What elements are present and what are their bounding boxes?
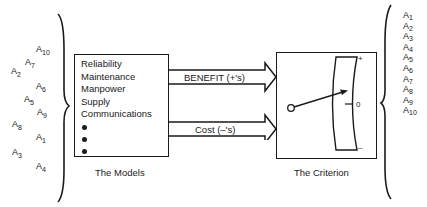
alternative-label: A10 xyxy=(36,45,50,54)
right-brace xyxy=(379,2,397,202)
ranked-alternative-label: A5 xyxy=(403,52,417,63)
models-caption: The Models xyxy=(95,167,145,178)
alternative-label: A3 xyxy=(12,148,22,157)
ranked-alternative-label: A2 xyxy=(403,21,417,32)
model-item-reliability: Reliability xyxy=(81,58,152,71)
models-list: Reliability Maintenance Manpower Supply … xyxy=(81,58,152,161)
alternative-label: A9 xyxy=(37,108,47,117)
alternative-label: A5 xyxy=(24,95,34,104)
ranked-alternative-label: A10 xyxy=(403,105,417,116)
ranked-alternative-label: A4 xyxy=(403,42,417,53)
alternative-label: A1 xyxy=(36,133,46,142)
ranked-alternative-label: A9 xyxy=(403,95,417,106)
scale-minus-label: – xyxy=(358,143,362,152)
scale-zero-label: 0 xyxy=(356,100,360,109)
ellipsis-dot xyxy=(82,137,87,142)
alternative-label: A8 xyxy=(12,120,22,129)
alternative-label: A7 xyxy=(25,58,35,67)
ranked-alternative-label: A3 xyxy=(403,31,417,42)
model-item-manpower: Manpower xyxy=(81,83,152,96)
ellipsis-dot xyxy=(82,149,87,154)
ellipsis-dot xyxy=(82,125,87,130)
model-item-supply: Supply xyxy=(81,96,152,109)
cost-label: Cost (–'s) xyxy=(195,124,235,135)
ranked-alternative-label: A1 xyxy=(403,10,417,21)
alternative-label: A4 xyxy=(36,162,46,171)
meter-scale xyxy=(333,57,358,150)
scale-plus-label: + xyxy=(358,54,363,63)
left-brace xyxy=(52,10,72,205)
needle-pivot xyxy=(288,105,295,112)
models-box: Reliability Maintenance Manpower Supply … xyxy=(74,54,169,157)
right-alternatives: A1A2A3A4A5A6A7A8A9A10 xyxy=(403,10,417,116)
ranked-alternative-label: A8 xyxy=(403,84,417,95)
model-item-maintenance: Maintenance xyxy=(81,71,152,84)
ranked-alternative-label: A6 xyxy=(403,63,417,74)
alternative-label: A2 xyxy=(11,67,21,76)
model-item-communications: Communications xyxy=(81,108,152,121)
ranked-alternative-label: A7 xyxy=(403,74,417,85)
benefit-label: BENEFIT (+'s) xyxy=(184,72,245,83)
criterion-caption: The Criterion xyxy=(294,167,349,178)
alternative-label: A6 xyxy=(36,82,46,91)
